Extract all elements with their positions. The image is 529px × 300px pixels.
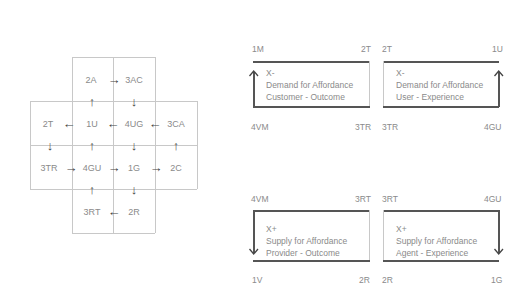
quadrant-subtitle: Agent - Experience: [396, 247, 477, 259]
axis-label: X+: [396, 223, 477, 235]
quadrant-text: X+ Supply for Affordance Agent - Experie…: [396, 223, 477, 259]
quadrant-title: Supply for Affordance: [396, 235, 477, 247]
